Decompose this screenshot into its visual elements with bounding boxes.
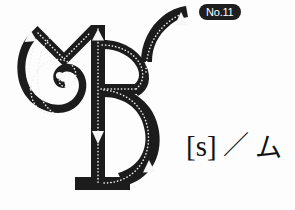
glyph-ink-body: [17, 6, 188, 190]
glyph-stage: .ink { fill: #1c1c1c; } .guide { fill: n…: [0, 0, 295, 210]
reading-latin-transcription: [s]: [186, 132, 217, 161]
guide-path-stroke-1-riser: [29, 45, 34, 92]
worksheet-page: .ink { fill: #1c1c1c; } .guide { fill: n…: [0, 0, 295, 210]
stroke-order-guides: [29, 14, 182, 184]
reading-annotation: [s] ／ ム: [186, 132, 282, 161]
lesson-number-label: No.11: [206, 6, 234, 18]
stroke-start-dot: [56, 72, 63, 79]
lesson-number-badge: No.11: [199, 4, 241, 20]
reading-katakana: ム: [255, 134, 282, 161]
reading-separator: ／: [223, 133, 249, 159]
